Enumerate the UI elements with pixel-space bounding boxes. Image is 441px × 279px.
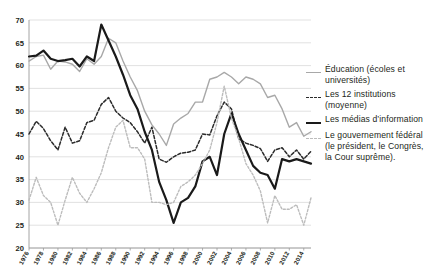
legend-label-line1: Les 12 institutions [325,89,396,99]
svg-text:30: 30 [16,198,24,207]
svg-text:2000: 2000 [191,250,204,266]
svg-text:1992: 1992 [133,250,146,266]
svg-text:1978: 1978 [32,250,45,266]
legend-marker-line-icon [306,117,322,128]
svg-text:60: 60 [16,61,24,70]
svg-text:2008: 2008 [249,250,262,266]
legend-label-line2: (le président, le Congrès, [325,141,424,152]
legend-label-line2: universités) [325,75,405,86]
svg-text:1994: 1994 [147,250,160,266]
svg-text:1980: 1980 [46,250,59,266]
svg-text:65: 65 [16,39,25,48]
legend-marker-line-icon [306,133,322,144]
svg-text:45: 45 [16,130,25,139]
svg-text:2004: 2004 [220,250,233,266]
svg-text:35: 35 [16,175,25,184]
svg-text:2012: 2012 [278,250,291,266]
legend-label-line1: Les médias d’information [325,114,423,124]
legend-label-line1: Éducation (écoles et [325,64,405,74]
svg-text:25: 25 [16,221,25,230]
series-line-0 [29,38,311,145]
legend-label-line1: Le gouvernement fédéral [325,130,423,140]
legend-label-federal-government: Le gouvernement fédéral (le président, l… [325,130,424,164]
svg-text:1986: 1986 [90,250,103,266]
legend-item-federal-government: Le gouvernement fédéral (le président, l… [306,130,441,164]
chart-legend: Éducation (écoles et universités) Éducat… [306,64,441,166]
legend-marker-line-icon [306,67,322,78]
line-chart-svg: 2025303540455055606570197619781980198219… [0,0,320,279]
legend-label-12-institutions: Les 12 institutions (moyenne) [325,89,396,112]
series-line-1 [29,98,311,163]
svg-text:2006: 2006 [234,250,247,266]
series-line-2 [29,25,311,223]
svg-text:2014: 2014 [292,250,305,266]
legend-label-education: Éducation (écoles et universités) Éducat… [325,64,405,87]
legend-label-line3: la Cour suprême). [325,152,424,163]
svg-text:2002: 2002 [205,250,218,266]
svg-text:40: 40 [16,153,24,162]
svg-text:1996: 1996 [162,250,175,266]
svg-text:1990: 1990 [118,250,131,266]
legend-label-news-media: Les médias d’information [325,114,423,125]
series-line-3 [29,86,311,225]
svg-text:1982: 1982 [61,250,74,266]
svg-text:55: 55 [16,84,25,93]
svg-text:50: 50 [16,107,24,116]
chart-figure: 2025303540455055606570197619781980198219… [0,0,441,279]
legend-marker-line-icon [306,92,322,103]
svg-text:2010: 2010 [263,250,276,266]
legend-item-education: Éducation (écoles et universités) Éducat… [306,64,441,87]
svg-text:1984: 1984 [75,250,88,266]
svg-text:1988: 1988 [104,250,117,266]
svg-text:1998: 1998 [176,250,189,266]
legend-label-line2: (moyenne) [325,100,396,111]
legend-item-news-media: Les médias d’information [306,114,441,128]
svg-text:70: 70 [16,16,24,25]
plot-area: 2025303540455055606570197619781980198219… [0,0,320,279]
legend-item-12-institutions: Les 12 institutions (moyenne) [306,89,441,112]
